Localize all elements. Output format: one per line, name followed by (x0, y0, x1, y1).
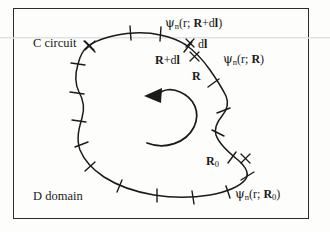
psi-plus-top: +d (202, 16, 215, 30)
point-R0-marker (241, 154, 250, 163)
label-R-plus-dl: R+dl (155, 54, 180, 66)
psi-close-top: ) (218, 16, 222, 30)
label-psi-R: ψn(r; R) (223, 53, 264, 67)
point-R-marker (190, 52, 199, 61)
label-c-circuit: C circuit (33, 37, 76, 50)
psi-glyph-bottom: ψ (235, 186, 245, 201)
psi-open-top: (r; (179, 16, 193, 30)
dl-tangent-marker (186, 39, 194, 47)
psi-close-bottom: ) (276, 187, 280, 201)
figure-canvas: ψn(r; R+dl) dl R+dl R ψn(r; R) C circuit… (0, 0, 330, 232)
R-plus-dl-vec: R (155, 53, 164, 67)
psi-glyph-right: ψ (223, 51, 233, 66)
R-plus-dl-rest: +d (164, 53, 177, 67)
psi-open-bottom: (r; (249, 187, 263, 201)
psi-open-right: (r; (237, 52, 251, 66)
label-R: R (192, 70, 201, 82)
dl-vec-glyph: l (204, 37, 207, 51)
psi-glyph-top: ψ (165, 15, 175, 30)
psi-close-right: ) (260, 52, 264, 66)
R0-sub: 0 (215, 159, 219, 169)
label-R0: R0 (206, 155, 219, 169)
psi-vec-top: R (193, 16, 202, 30)
psi-vec-bottom: R (263, 187, 272, 201)
leader-lines (85, 41, 95, 50)
label-d-domain: D domain (33, 190, 83, 203)
R-plus-dl-dvec: l (176, 53, 179, 67)
label-psi-R0: ψn(r; R0) (235, 188, 280, 202)
label-psi-R-plus-dl: ψn(r; R+dl) (165, 17, 222, 31)
label-dl: dl (198, 38, 207, 50)
circulation-arrow-head (144, 88, 162, 103)
psi-vec-right: R (251, 52, 260, 66)
R0-vec: R (206, 154, 215, 168)
